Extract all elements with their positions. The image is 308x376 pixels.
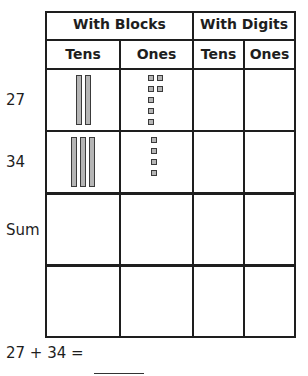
table-border-bottom	[45, 336, 296, 338]
digits-ones-cell-row4[interactable]	[245, 267, 294, 336]
blocks-ones-cell-row4[interactable]	[121, 267, 192, 336]
digits-ones-cell-row2[interactable]	[245, 132, 294, 192]
header-with-digits: With Digits	[194, 16, 294, 32]
ones-cube-icon	[151, 137, 157, 143]
row-label-27: 27	[6, 91, 25, 109]
group-header-divider	[45, 39, 296, 41]
digits-tens-cell-row4[interactable]	[194, 267, 243, 336]
header-digits-ones: Ones	[245, 46, 294, 62]
row-label-34: 34	[6, 153, 25, 171]
blocks-ones-cell-sum[interactable]	[121, 195, 192, 264]
tens-rod-icon	[71, 137, 77, 187]
ones-blocks-row1	[121, 70, 192, 130]
table-border-right	[294, 11, 296, 338]
tens-rod-icon	[76, 75, 82, 125]
header-with-blocks: With Blocks	[47, 16, 192, 32]
tens-rod-icon	[85, 75, 91, 125]
tens-blocks-row1	[47, 70, 119, 130]
ones-cube-icon	[148, 86, 154, 92]
ones-cube-icon	[151, 148, 157, 154]
equation-answer-blank[interactable]	[94, 373, 144, 374]
ones-blocks-row2	[121, 132, 192, 192]
blocks-tens-cell-sum[interactable]	[47, 195, 119, 264]
digits-ones-cell-row1[interactable]	[245, 70, 294, 130]
digits-tens-cell-row1[interactable]	[194, 70, 243, 130]
tens-rod-icon	[89, 137, 95, 187]
digits-ones-cell-sum[interactable]	[245, 195, 294, 264]
equation-text: 27 + 34 =	[6, 344, 84, 362]
ones-cube-icon	[148, 97, 154, 103]
digits-tens-cell-row2[interactable]	[194, 132, 243, 192]
ones-cube-icon	[151, 159, 157, 165]
digits-tens-cell-sum[interactable]	[194, 195, 243, 264]
tens-rod-icon	[80, 137, 86, 187]
ones-cube-icon	[157, 86, 163, 92]
blocks-tens-cell-row4[interactable]	[47, 267, 119, 336]
header-blocks-ones: Ones	[121, 46, 192, 62]
ones-cube-icon	[157, 75, 163, 81]
ones-cube-icon	[148, 119, 154, 125]
table-border-top	[45, 11, 296, 13]
header-blocks-tens: Tens	[47, 46, 119, 62]
ones-cube-icon	[151, 170, 157, 176]
row-label-sum: Sum	[6, 221, 40, 239]
ones-cube-icon	[148, 108, 154, 114]
header-digits-tens: Tens	[194, 46, 243, 62]
ones-cube-icon	[148, 75, 154, 81]
tens-blocks-row2	[47, 132, 119, 192]
